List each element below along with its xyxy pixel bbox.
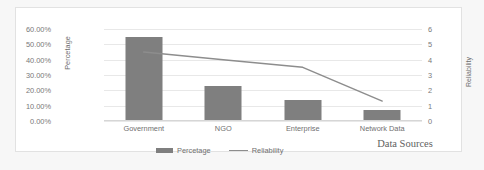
y-axis-left-tick-label: 10.00% [3, 101, 51, 110]
y-axis-left-title: Percetage [63, 25, 77, 81]
y-axis-right-tick-label: 4 [428, 55, 442, 64]
y-axis-right-tick-label: 6 [428, 25, 442, 34]
legend-item-reliability: Reliability [229, 146, 284, 155]
x-axis-tick-label: NGO [184, 124, 264, 133]
y-axis-left-tick-label: 60.00% [3, 25, 51, 34]
y-axis-left-tick-label: 20.00% [3, 86, 51, 95]
x-axis-tick-label: Network Data [343, 124, 423, 133]
y-axis-right-tick-label: 1 [428, 101, 442, 110]
y-axis-right-tick-label: 2 [428, 86, 442, 95]
legend-label-percetage: Percetage [177, 146, 211, 155]
plot-area [104, 29, 422, 121]
y-axis-right-tick-label: 5 [428, 40, 442, 49]
x-axis-baseline [104, 120, 422, 121]
reliability-line-series [104, 29, 422, 121]
chart-frame: Percetage Reliability Data Sources 0.00%… [15, 7, 462, 152]
y-axis-left-tick-label: 0.00% [3, 117, 51, 126]
bar-swatch-icon [156, 148, 173, 153]
reliability-line [144, 52, 383, 101]
x-axis-tick-label: Enterprise [263, 124, 343, 133]
y-axis-right-title: Reliability [465, 47, 477, 97]
y-axis-right-tick-label: 0 [428, 117, 442, 126]
y-axis-left-tick-label: 50.00% [3, 40, 51, 49]
legend-item-percetage: Percetage [156, 146, 211, 155]
legend-label-reliability: Reliability [252, 146, 284, 155]
chart-page: Percetage Reliability Data Sources 0.00%… [0, 0, 484, 170]
chart-legend: Percetage Reliability [156, 146, 283, 155]
x-axis-title: Data Sources [346, 138, 464, 149]
y-axis-right-tick-label: 3 [428, 71, 442, 80]
x-axis-tick-label: Government [104, 124, 184, 133]
line-swatch-icon [229, 150, 248, 151]
y-axis-left-tick-label: 40.00% [3, 55, 51, 64]
y-axis-left-tick-label: 30.00% [3, 71, 51, 80]
gridline [104, 121, 422, 122]
